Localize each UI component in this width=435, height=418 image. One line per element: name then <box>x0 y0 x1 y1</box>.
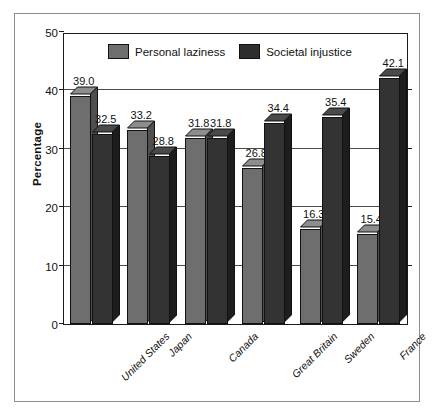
bar-societal-injustice <box>149 149 177 324</box>
y-axis-tick <box>59 148 64 149</box>
bar-3d-shading <box>322 108 352 324</box>
bar-3d-shading <box>149 147 179 324</box>
y-axis-tick <box>59 206 64 207</box>
legend-label: Personal laziness <box>135 46 225 58</box>
bar-value-label: 32.5 <box>88 113 124 125</box>
chart-legend: Personal lazinessSocietal injustice <box>108 44 352 59</box>
bar-societal-injustice <box>379 71 407 324</box>
bar-value-label: 35.4 <box>318 96 354 108</box>
bar-societal-injustice <box>92 127 120 324</box>
y-axis-tick <box>59 323 64 324</box>
y-axis-tick-label: 50 <box>45 27 58 39</box>
bar-societal-injustice <box>207 131 235 324</box>
bar-value-label: 34.4 <box>260 102 296 114</box>
y-axis-tick-label: 40 <box>45 85 58 97</box>
legend-swatch-icon <box>239 44 260 59</box>
y-axis-tick-label: 10 <box>45 261 58 273</box>
y-axis-tick <box>59 89 64 90</box>
y-axis-tick-label: 0 <box>52 319 58 331</box>
bar-value-label: 42.1 <box>375 57 411 69</box>
legend-item: Personal laziness <box>108 44 225 59</box>
y-axis-tick-labels: 01020304050 <box>30 33 58 325</box>
bar-3d-shading <box>379 69 409 324</box>
chart-figure: Percentage 01020304050 39.032.533.228.83… <box>0 0 435 418</box>
legend-item: Societal injustice <box>239 44 352 59</box>
y-axis-tick-label: 20 <box>45 202 58 214</box>
bar-3d-shading <box>92 125 122 324</box>
bar-value-label: 39.0 <box>66 75 102 87</box>
y-axis-tick-label: 30 <box>45 144 58 156</box>
bar-3d-shading <box>264 114 294 324</box>
gridline <box>64 89 407 90</box>
bar-value-label: 33.2 <box>123 109 159 121</box>
bar-societal-injustice <box>264 116 292 324</box>
bar-value-label: 28.8 <box>145 135 181 147</box>
y-axis-tick <box>59 265 64 266</box>
bar-value-label: 31.8 <box>203 117 239 129</box>
bar-3d-shading <box>207 129 237 324</box>
bar-societal-injustice <box>322 110 350 324</box>
legend-swatch-icon <box>108 44 129 59</box>
legend-label: Societal injustice <box>266 46 352 58</box>
y-axis-tick <box>59 31 64 32</box>
plot-area: 39.032.533.228.831.831.826.834.416.335.4… <box>63 33 408 325</box>
